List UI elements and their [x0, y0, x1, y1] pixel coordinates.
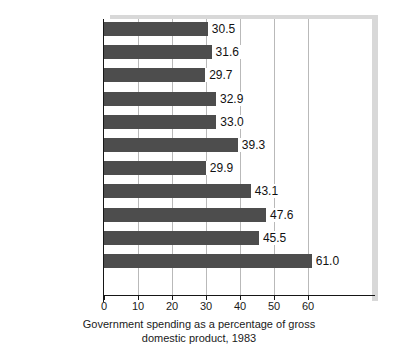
bar-australia: [104, 92, 216, 106]
bar-japan: [104, 45, 212, 59]
caption-line-1: Government spending as a percentage of g…: [0, 317, 398, 331]
bar-value-france: 45.5: [259, 231, 288, 245]
bar-france: [104, 231, 259, 245]
chart-caption: Government spending as a percentage of g…: [0, 317, 398, 345]
bar-west-germany: [104, 208, 266, 222]
caption-line-2: domestic product, 1983: [0, 331, 398, 345]
x-tick-label-20: 20: [157, 300, 187, 313]
x-tick-label-50: 50: [259, 300, 289, 313]
bar-value-australia: 32.9: [216, 92, 245, 106]
bar-value-switzerland: 29.9: [206, 161, 235, 175]
bar-value-sweden: 61.0: [312, 254, 341, 268]
bar-value-united-states: 33.0: [216, 115, 245, 129]
bar-greece: [104, 68, 205, 82]
x-tick-label-40: 40: [225, 300, 255, 313]
bar-value-canada: 39.3: [238, 138, 267, 152]
x-axis-line: [103, 295, 375, 296]
bar-value-spain: 30.5: [208, 22, 237, 36]
bar-value-japan: 31.6: [212, 45, 241, 59]
bar-value-united-kingdom: 43.1: [251, 184, 280, 198]
x-tick-label-60: 60: [293, 300, 323, 313]
x-tick-label-0: 0: [89, 300, 119, 313]
bar-value-greece: 29.7: [205, 68, 234, 82]
bar-spain: [104, 22, 208, 36]
bar-united-states: [104, 115, 216, 129]
x-tick-label-30: 30: [191, 300, 221, 313]
bar-switzerland: [104, 161, 206, 175]
bar-value-west-germany: 47.6: [266, 208, 295, 222]
bar-canada: [104, 138, 238, 152]
bar-chart-figure: Spain30.5Japan31.6Greece29.7Australia32.…: [0, 0, 398, 355]
bar-sweden: [104, 254, 312, 268]
x-tick-label-10: 10: [123, 300, 153, 313]
bar-united-kingdom: [104, 184, 251, 198]
